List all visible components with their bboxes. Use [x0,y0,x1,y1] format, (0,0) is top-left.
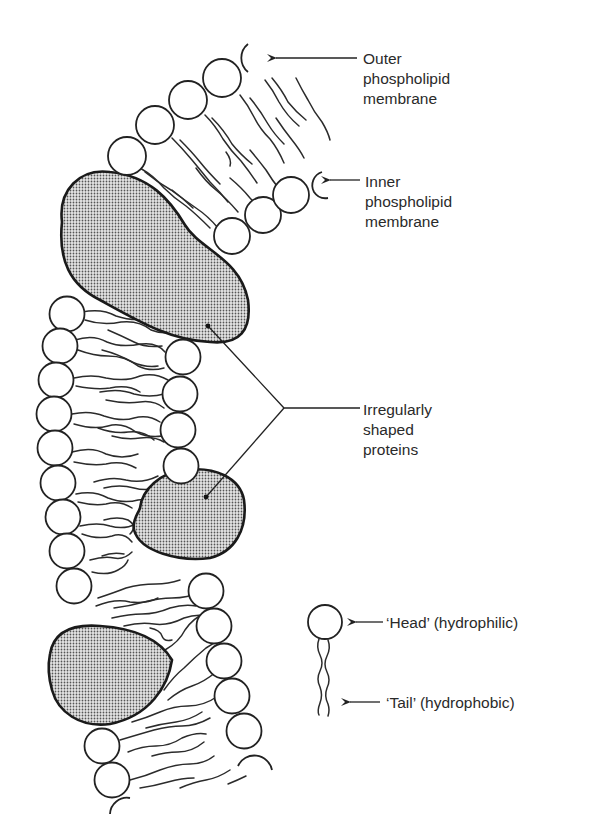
label-head: ‘Head’ (hydrophilic) [386,614,518,631]
label-proteins-line1: Irregularly [363,401,432,418]
label-tail: ‘Tail’ (hydrophobic) [386,694,515,711]
protein-bottom [49,626,172,725]
label-proteins-line2: shaped [363,421,414,438]
label-outer-line3: membrane [363,90,437,107]
leader-lines [204,58,383,702]
membrane-diagram: Outer phospholipid membrane Inner phosph… [0,0,594,824]
protein-large-top [61,172,248,343]
label-outer-line2: phospholipid [363,70,450,87]
label-inner-line2: phospholipid [365,193,452,210]
protein-middle [134,469,245,559]
label-inner-line3: membrane [365,213,439,230]
label-inner-line1: Inner [365,173,400,190]
phospholipid-molecule-icon [308,605,342,716]
label-proteins-line3: proteins [363,441,418,458]
label-outer-line1: Outer [363,50,402,67]
labels: Outer phospholipid membrane Inner phosph… [363,50,518,711]
